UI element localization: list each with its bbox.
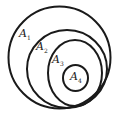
label-a3: A3: [51, 53, 64, 67]
label-a2: A2: [35, 40, 48, 54]
diagram-canvas: A1 A2 A3 A4: [0, 0, 118, 116]
nested-sets-diagram: A1 A2 A3 A4: [0, 0, 118, 116]
label-a4: A4: [69, 70, 82, 84]
label-a1: A1: [18, 27, 31, 41]
